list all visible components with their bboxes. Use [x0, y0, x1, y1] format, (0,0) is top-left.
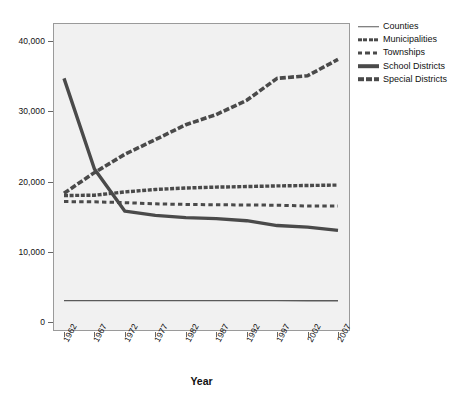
legend-item-municipalities: Municipalities: [358, 33, 462, 46]
legend-swatch-municipalities: [358, 35, 379, 45]
legend-label-municipalities: Municipalities: [383, 35, 437, 44]
legend-swatch-counties: [358, 22, 379, 32]
chart-container: 010,00020,00030,00040,000 19621967197219…: [0, 0, 462, 406]
legend-label-special-districts: Special Districts: [383, 75, 447, 84]
legend-item-school-districts: School Districts: [358, 60, 462, 73]
legend-item-special-districts: Special Districts: [358, 73, 462, 86]
chart-legend: Counties Municipalities Townships School…: [358, 20, 462, 86]
series-line-school-districts: [64, 78, 338, 230]
legend-label-counties: Counties: [383, 22, 419, 31]
legend-label-townships: Townships: [383, 48, 425, 57]
legend-swatch-townships: [358, 48, 379, 58]
series-line-townships: [64, 202, 338, 206]
legend-swatch-special-districts: [358, 74, 379, 84]
legend-swatch-school-districts: [358, 61, 379, 71]
x-axis-title: Year: [0, 375, 403, 387]
legend-item-counties: Counties: [358, 20, 462, 33]
legend-item-townships: Townships: [358, 46, 462, 59]
legend-label-school-districts: School Districts: [383, 62, 445, 71]
series-line-special-districts: [64, 59, 338, 193]
